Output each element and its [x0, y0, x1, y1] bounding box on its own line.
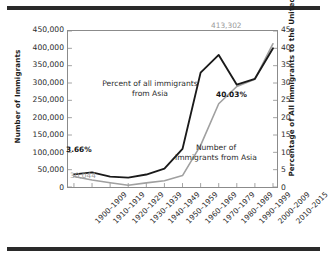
page-rule-bottom [7, 247, 320, 251]
annotation-first-number: 30,044 [70, 171, 96, 180]
tick-label: 40 [281, 44, 291, 52]
tick-label: 10 [281, 149, 291, 157]
tick-label: 25 [281, 96, 291, 104]
annotation-last-number: 413,302 [211, 21, 242, 30]
y2-axis-tick-labels: 051015202530354045 [281, 14, 299, 174]
percent-series-label: Percent of all immigrants from Asia [90, 79, 210, 99]
tick-label: 50,000 [37, 166, 64, 174]
percent-series-label-line2: from Asia [132, 89, 168, 98]
annotation-first-percent: 3.66% [66, 145, 92, 154]
number-series-label: Number of immigrants from Asia [164, 143, 268, 163]
tick-label: 35 [281, 61, 291, 69]
tick-label: 100,000 [33, 149, 64, 157]
tick-label: 400,000 [33, 44, 64, 52]
tick-label: 250,000 [33, 96, 64, 104]
plot-area: Percent of all immigrants from Asia Numb… [67, 30, 278, 188]
tick-label: 0 [59, 184, 64, 192]
number-series-line [74, 44, 273, 186]
percent-series-label-line1: Percent of all immigrants [102, 79, 197, 88]
x-axis-tick-labels: 1900–19091910–19191920–19291930–19391940… [67, 190, 278, 244]
tick-label: 200,000 [33, 114, 64, 122]
tick-label: 150,000 [33, 131, 64, 139]
tick-label: 30 [281, 79, 291, 87]
page-rule-top [7, 6, 320, 10]
number-series-label-line1: Number of [196, 143, 236, 152]
number-series-label-line2: immigrants from Asia [175, 153, 257, 162]
tick-label: 20 [281, 114, 291, 122]
tick-label: 15 [281, 131, 291, 139]
tick-label: 450,000 [33, 26, 64, 34]
tick-label: 45 [281, 26, 291, 34]
tick-label: 300,000 [33, 79, 64, 87]
annotation-last-percent: 40.03% [216, 90, 247, 99]
series-canvas [68, 31, 277, 187]
tick-label: 5 [281, 166, 286, 174]
chart-figure: Number of Immigrants Percentage of All I… [0, 14, 327, 244]
tick-label: 350,000 [33, 61, 64, 69]
y-axis-tick-labels: 050,000100,000150,000200,000250,000300,0… [14, 14, 64, 174]
